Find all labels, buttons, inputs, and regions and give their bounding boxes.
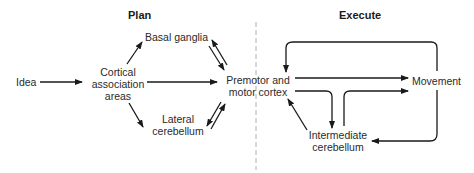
arrow-basal-ganglia-to-premotor [209, 46, 224, 70]
premotor-line-2: motor cortex [222, 86, 294, 98]
arrow-cortical-to-basal-ganglia [127, 42, 142, 64]
lateral-line-1: Lateral [150, 113, 206, 125]
arrow-movement-to-intermediate-cerebellum [372, 90, 437, 141]
node-cortical-association-areas: Cortical association areas [89, 66, 147, 102]
node-premotor-motor-cortex: Premotor and motor cortex [222, 74, 294, 98]
cortical-line-3: areas [89, 90, 147, 102]
premotor-line-1: Premotor and [222, 74, 294, 86]
arrow-cortical-to-lateral-cerebellum [129, 103, 143, 127]
lateral-line-2: cerebellum [150, 125, 206, 137]
cortical-line-2: association [89, 78, 147, 90]
plan-header: Plan [128, 9, 151, 21]
cortical-line-1: Cortical [89, 66, 147, 78]
arrow-premotor-to-basal-ganglia [212, 40, 227, 65]
node-basal-ganglia: Basal ganglia [145, 31, 208, 43]
node-intermediate-cerebellum: Intermediate cerebellum [307, 129, 369, 153]
node-lateral-cerebellum: Lateral cerebellum [150, 113, 206, 137]
arrow-premotor-to-intermediate-cerebellum [295, 91, 332, 128]
arrow-intermediate-cerebellum-to-movement [344, 91, 408, 126]
arrow-intermediate-cerebellum-to-premotor [288, 99, 307, 130]
node-idea: Idea [16, 76, 36, 88]
arrow-movement-feedback-to-premotor [286, 42, 437, 72]
execute-header: Execute [339, 9, 381, 21]
node-movement: Movement [412, 75, 461, 87]
intermediate-line-2: cerebellum [307, 141, 369, 153]
intermediate-line-1: Intermediate [307, 129, 369, 141]
